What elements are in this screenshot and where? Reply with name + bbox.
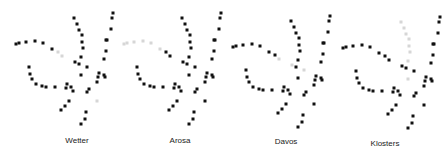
faded-node — [96, 100, 99, 103]
node — [111, 17, 114, 20]
node — [355, 70, 358, 73]
node — [165, 51, 168, 54]
node — [431, 80, 434, 83]
panel-davos: Davos — [232, 15, 332, 147]
node — [413, 95, 416, 98]
node — [80, 56, 83, 59]
node — [66, 83, 69, 86]
node — [149, 85, 152, 88]
node — [80, 74, 83, 77]
node — [356, 77, 359, 80]
node — [186, 63, 189, 66]
node — [188, 74, 191, 77]
node — [174, 83, 177, 86]
node — [303, 94, 306, 97]
node — [212, 76, 215, 79]
faded-node — [403, 27, 406, 30]
node — [189, 41, 192, 44]
node — [235, 45, 238, 48]
node — [313, 84, 316, 87]
faded-node — [142, 40, 145, 43]
node — [327, 31, 330, 34]
node — [220, 12, 223, 15]
node — [302, 114, 305, 117]
faded-node — [407, 78, 410, 81]
node — [218, 28, 221, 31]
node — [78, 29, 81, 32]
node — [384, 55, 387, 58]
node — [18, 42, 21, 45]
node — [314, 79, 317, 82]
node — [103, 58, 106, 61]
node — [84, 118, 87, 121]
node — [405, 67, 408, 70]
node — [169, 55, 172, 58]
node — [25, 41, 28, 44]
node — [258, 88, 261, 91]
faded-node — [61, 55, 64, 58]
node — [301, 121, 304, 124]
node — [186, 29, 189, 32]
node — [137, 73, 140, 76]
node — [194, 66, 197, 69]
node — [76, 23, 79, 26]
node — [51, 48, 54, 51]
node — [245, 69, 248, 72]
node — [437, 32, 440, 35]
faded-node — [407, 60, 410, 63]
node — [411, 122, 414, 125]
node — [392, 91, 395, 94]
node — [173, 87, 176, 90]
node — [299, 50, 302, 53]
panel-label: Klosters — [371, 139, 400, 148]
node — [289, 93, 292, 96]
node — [298, 44, 301, 47]
node — [393, 87, 396, 90]
faded-node — [57, 51, 60, 54]
node — [242, 44, 245, 47]
faded-node — [409, 51, 412, 54]
node — [369, 46, 372, 49]
node — [432, 54, 435, 57]
node — [219, 17, 222, 20]
node — [329, 15, 332, 18]
node — [248, 81, 251, 84]
node — [345, 46, 348, 49]
node — [176, 100, 179, 103]
node — [399, 94, 402, 97]
node — [439, 16, 442, 19]
node — [387, 113, 390, 116]
node — [205, 76, 208, 79]
network-diagram: WetterArosaDavosKlosters — [0, 0, 447, 155]
node — [74, 61, 77, 64]
node — [413, 70, 416, 73]
node — [104, 76, 107, 79]
node — [184, 23, 187, 26]
node — [86, 66, 89, 69]
panel-klosters: Klosters — [342, 16, 442, 149]
node — [45, 86, 48, 89]
node — [430, 62, 433, 65]
node — [372, 90, 375, 93]
node — [381, 90, 384, 93]
node — [295, 32, 298, 35]
faded-node — [126, 42, 129, 45]
faded-node — [133, 41, 136, 44]
node — [232, 46, 235, 49]
node — [86, 91, 89, 94]
faded-node — [150, 42, 153, 45]
node — [105, 50, 108, 53]
faded-node — [291, 64, 294, 67]
faded-node — [123, 43, 126, 46]
node — [295, 66, 298, 69]
node — [298, 37, 301, 40]
node — [54, 86, 57, 89]
node — [328, 20, 331, 23]
node — [189, 34, 192, 37]
node — [172, 105, 175, 108]
faded-node — [408, 45, 411, 48]
node — [136, 66, 139, 69]
node — [28, 66, 31, 69]
node — [178, 86, 181, 89]
node — [168, 109, 171, 112]
